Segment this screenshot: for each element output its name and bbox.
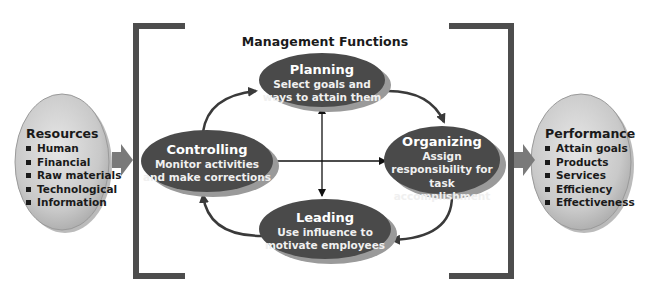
resource-item: Financial: [26, 156, 121, 170]
leading-desc-line: Use influence to: [260, 226, 390, 239]
performance-list: Attain goals Products Services Efficienc…: [545, 142, 635, 210]
planning-desc-line: ways to attain them: [259, 91, 385, 104]
planning-node: Planning Select goals and ways to attain…: [259, 62, 385, 105]
planning-to-organizing-arrow: [385, 91, 444, 122]
organizing-node: Organizing Assign responsibility for tas…: [380, 134, 504, 203]
performance-item: Products: [545, 156, 635, 170]
performance-item: Services: [545, 169, 635, 183]
planning-label: Planning: [259, 62, 385, 78]
resources-list: Human Financial Raw materials Technologi…: [26, 142, 121, 210]
controlling-desc-line: Monitor activities: [142, 158, 272, 171]
leading-to-controlling-arrow: [203, 195, 262, 236]
controlling-label: Controlling: [142, 142, 272, 158]
controlling-desc-line: and make corrections: [142, 171, 272, 184]
resource-item: Human: [26, 142, 121, 156]
resources-heading: Resources: [26, 126, 121, 141]
performance-item: Efficiency: [545, 183, 635, 197]
leading-node: Leading Use influence to motivate employ…: [260, 210, 390, 253]
performance-block: Performance Attain goals Products Servic…: [545, 126, 635, 210]
controlling-node: Controlling Monitor activities and make …: [142, 142, 272, 185]
performance-heading: Performance: [545, 126, 635, 141]
performance-item: Effectiveness: [545, 196, 635, 210]
performance-item: Attain goals: [545, 142, 635, 156]
planning-desc-line: Select goals and: [259, 78, 385, 91]
leading-desc-line: motivate employees: [260, 239, 390, 252]
organizing-desc-line: responsibility for task: [380, 163, 504, 189]
controlling-to-planning-arrow: [203, 91, 256, 132]
resource-item: Information: [26, 196, 121, 210]
organizing-desc-line: accomplishment: [380, 190, 504, 203]
diagram-title: Management Functions: [225, 34, 425, 49]
resource-item: Technological: [26, 183, 121, 197]
organizing-desc-line: Assign: [380, 150, 504, 163]
resources-block: Resources Human Financial Raw materials …: [26, 126, 121, 210]
organizing-label: Organizing: [380, 134, 504, 150]
resource-item: Raw materials: [26, 169, 121, 183]
leading-label: Leading: [260, 210, 390, 226]
